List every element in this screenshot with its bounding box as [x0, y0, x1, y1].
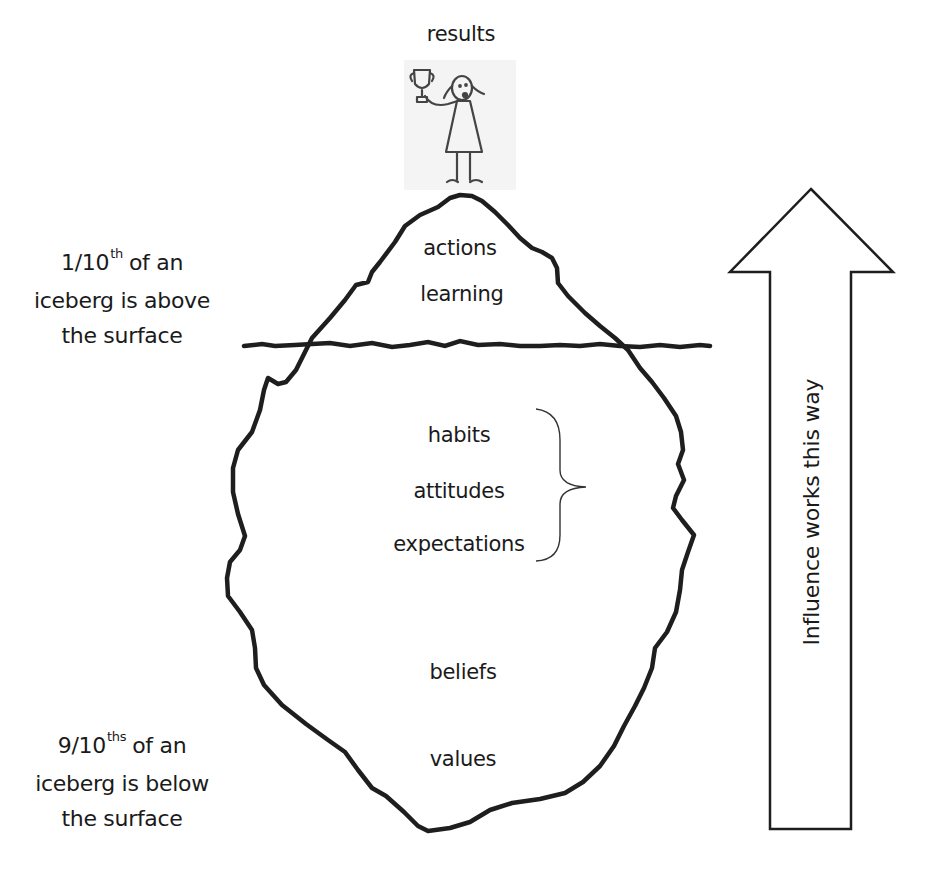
label-learning: learning: [420, 282, 503, 306]
label-actions: actions: [423, 236, 496, 260]
above-note-line1: 1/10thof an: [2, 245, 242, 283]
label-expectations: expectations: [393, 532, 524, 556]
label-attitudes: attitudes: [413, 479, 504, 503]
below-note-line2: iceberg is below: [2, 766, 242, 801]
above-note-line2: iceberg is above: [2, 283, 242, 318]
arrow-label: Influence works this way: [799, 379, 824, 646]
below-surface-note: 9/10thsof an iceberg is below the surfac…: [2, 728, 242, 836]
label-results: results: [427, 22, 495, 46]
water-surface-line: [244, 341, 710, 347]
label-beliefs: beliefs: [429, 660, 496, 684]
grouping-brace: [536, 409, 586, 561]
above-note-line3: the surface: [2, 318, 242, 353]
below-note-line3: the surface: [2, 801, 242, 836]
label-values: values: [430, 747, 497, 771]
above-surface-note: 1/10thof an iceberg is above the surface: [2, 245, 242, 353]
trophy-girl-icon: [410, 70, 484, 182]
label-habits: habits: [428, 423, 491, 447]
below-note-line1: 9/10thsof an: [2, 728, 242, 766]
